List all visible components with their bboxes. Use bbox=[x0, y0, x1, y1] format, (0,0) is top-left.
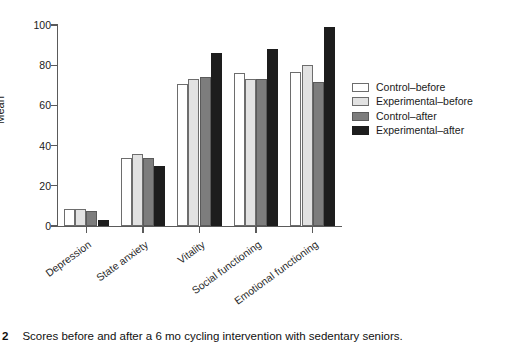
caption-number: 2 bbox=[2, 330, 8, 342]
bar bbox=[211, 53, 222, 226]
plot-area bbox=[58, 25, 341, 226]
bar bbox=[267, 49, 278, 226]
x-tick-mark bbox=[199, 227, 200, 233]
legend-label: Control–after bbox=[376, 111, 437, 122]
x-tick-mark bbox=[312, 227, 313, 233]
bar bbox=[313, 82, 324, 226]
y-tick-label-wrap: 60 bbox=[0, 100, 51, 110]
y-tick-label-wrap: 100 bbox=[0, 20, 51, 30]
y-tick-label: 20 bbox=[25, 181, 51, 191]
y-tick-mark bbox=[51, 24, 57, 25]
legend-label: Experimental–after bbox=[376, 125, 464, 136]
y-tick-label-wrap: 0 bbox=[0, 221, 51, 231]
bar bbox=[121, 158, 132, 226]
legend-swatch bbox=[352, 83, 369, 92]
legend-swatch bbox=[352, 126, 369, 135]
legend-item: Control–before bbox=[352, 80, 473, 95]
x-tick-mark bbox=[142, 227, 143, 233]
y-tick-label: 0 bbox=[25, 221, 51, 231]
y-tick-label: 60 bbox=[25, 100, 51, 110]
bar bbox=[324, 27, 335, 226]
bar bbox=[75, 209, 86, 226]
bar bbox=[188, 79, 199, 226]
y-tick-label-wrap: 40 bbox=[0, 141, 51, 151]
y-tick-mark bbox=[51, 105, 57, 106]
legend-item: Experimental–after bbox=[352, 124, 473, 139]
y-tick-label: 80 bbox=[25, 60, 51, 70]
bar bbox=[234, 73, 245, 226]
legend-swatch bbox=[352, 97, 369, 106]
y-tick-label-wrap: 80 bbox=[0, 60, 51, 70]
y-tick-label-wrap: 20 bbox=[0, 181, 51, 191]
bar bbox=[290, 72, 301, 226]
y-tick-label: 100 bbox=[25, 20, 51, 30]
bar bbox=[302, 65, 313, 226]
bar bbox=[132, 154, 143, 226]
bar bbox=[154, 166, 165, 226]
bar bbox=[177, 84, 188, 226]
x-tick-mark bbox=[255, 227, 256, 233]
legend-item: Control–after bbox=[352, 109, 473, 124]
y-tick-mark bbox=[51, 145, 57, 146]
y-tick-mark bbox=[51, 225, 57, 226]
y-tick-label: 40 bbox=[25, 141, 51, 151]
legend-swatch bbox=[352, 112, 369, 121]
y-tick-mark bbox=[51, 185, 57, 186]
bar bbox=[256, 79, 267, 226]
legend-label: Experimental–before bbox=[376, 96, 473, 107]
bar bbox=[200, 77, 211, 226]
x-tick-mark bbox=[86, 227, 87, 233]
figure-container: Mean 020406080100 DepressionState anxiet… bbox=[0, 0, 506, 342]
legend: Control–beforeExperimental–beforeControl… bbox=[352, 80, 473, 138]
bar bbox=[98, 220, 109, 226]
bar bbox=[64, 209, 75, 226]
bar bbox=[86, 211, 97, 226]
caption-text: Scores before and after a 6 mo cycling i… bbox=[22, 330, 402, 342]
bar bbox=[143, 158, 154, 226]
figure-caption: 2 Scores before and after a 6 mo cycling… bbox=[0, 330, 506, 342]
bar bbox=[245, 79, 256, 226]
y-tick-mark bbox=[51, 65, 57, 66]
legend-item: Experimental–before bbox=[352, 95, 473, 110]
legend-label: Control–before bbox=[376, 82, 445, 93]
